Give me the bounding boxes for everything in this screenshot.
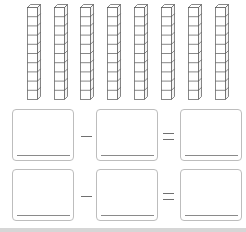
tens-rod-icon xyxy=(80,4,95,101)
minus-sign xyxy=(81,136,92,137)
answer-box-2-left[interactable] xyxy=(12,169,74,221)
bottom-bar xyxy=(0,228,246,232)
tens-rod-icon xyxy=(27,4,42,101)
tens-rod-icon xyxy=(54,4,69,101)
tens-rod-icon xyxy=(188,4,203,101)
tens-rod-icon xyxy=(215,4,230,101)
tens-rod-icon xyxy=(161,4,176,101)
answer-box-1-result[interactable] xyxy=(180,109,242,161)
answer-line xyxy=(101,215,154,216)
answer-box-2-result[interactable] xyxy=(180,169,242,221)
answer-box-1-left[interactable] xyxy=(12,109,74,161)
answer-line xyxy=(17,215,70,216)
answer-box-1-right[interactable] xyxy=(96,109,158,161)
answer-line xyxy=(185,155,238,156)
answer-box-2-right[interactable] xyxy=(96,169,158,221)
answer-line xyxy=(17,155,70,156)
tens-rod-icon xyxy=(107,4,122,101)
minus-sign xyxy=(81,196,92,197)
answer-line xyxy=(185,215,238,216)
answer-line xyxy=(101,155,154,156)
equals-sign xyxy=(163,193,174,200)
equals-sign xyxy=(163,133,174,140)
tens-rod-icon xyxy=(134,4,149,101)
